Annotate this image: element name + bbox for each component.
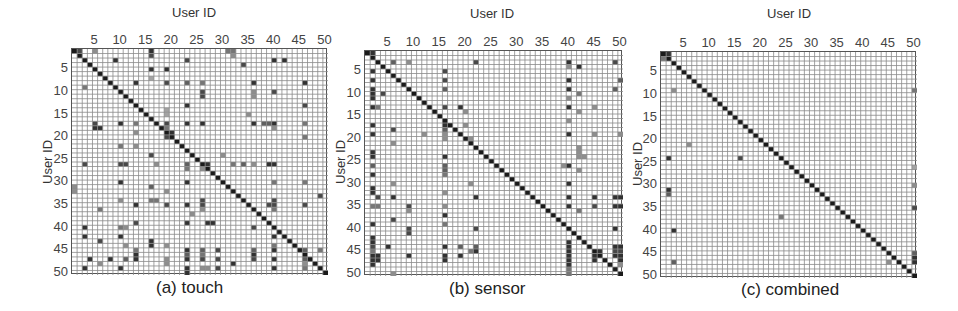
y-tick-label: 20 (347, 131, 361, 144)
heatmap-cell (365, 51, 370, 56)
heatmap-cell (566, 204, 571, 209)
caption: (c) combined (741, 280, 839, 300)
heatmap-cell (509, 177, 514, 182)
x-tick-label: 20 (457, 35, 471, 48)
heatmap-cell (530, 195, 535, 200)
heatmap-cell (850, 219, 855, 224)
y-tick-label: 45 (347, 243, 361, 256)
heatmap-cell (77, 49, 82, 54)
heatmap-cell (272, 198, 277, 203)
heatmap-cell (661, 57, 666, 62)
heatmap-cell (566, 182, 571, 187)
heatmap-cell (566, 240, 571, 245)
heatmap-cell (468, 141, 473, 146)
heatmap-cell (671, 228, 676, 233)
heatmap-cell (108, 257, 113, 262)
heatmap-cell (468, 182, 473, 187)
y-tick-label: 20 (54, 129, 68, 142)
y-tick-label: 10 (54, 84, 68, 97)
heatmap-cell (241, 162, 246, 167)
heatmap-cell (82, 266, 87, 271)
heatmap-cell (535, 200, 540, 205)
heatmap-cell (302, 203, 307, 208)
heatmap-cell (164, 261, 169, 266)
y-tick-label: 10 (643, 87, 657, 100)
heatmap-cell (692, 79, 697, 84)
heatmap-cell (566, 245, 571, 250)
heatmap-cell (661, 52, 666, 57)
heatmap-cell (613, 227, 618, 232)
heatmap-cell (473, 195, 478, 200)
heatmap-cell (401, 83, 406, 88)
heatmap-cell (473, 245, 478, 250)
heatmap-cell (205, 162, 210, 167)
heatmap-cell (195, 157, 200, 162)
heatmap-cell (577, 92, 582, 97)
heatmap-cell (463, 137, 468, 142)
heatmap-cell (251, 248, 256, 253)
heatmap-cell (597, 249, 602, 254)
y-tick-label: 25 (347, 153, 361, 166)
heatmap-cell (618, 249, 623, 254)
heatmap-cell (748, 129, 753, 134)
heatmap-cell (370, 132, 375, 137)
heatmap-cell (608, 263, 613, 268)
heatmap-cell (256, 212, 261, 217)
heatmap-cell (149, 185, 154, 190)
heatmap-cell (370, 263, 375, 268)
heatmap-cell (722, 106, 727, 111)
heatmap-cell (267, 203, 272, 208)
heatmap-cell (396, 78, 401, 83)
heatmap-cell (566, 119, 571, 124)
heatmap-cell (753, 133, 758, 138)
heatmap-cell (370, 173, 375, 178)
heatmap-cell (566, 195, 571, 200)
heatmap-cell (473, 146, 478, 151)
heatmap-cell (912, 165, 917, 170)
heatmap-cell (458, 105, 463, 110)
heatmap-cell (185, 58, 190, 63)
heatmap-cell (149, 239, 154, 244)
heatmap-cell (370, 87, 375, 92)
x-tick-label: 45 (881, 36, 895, 49)
heatmap-cell (525, 191, 530, 196)
heatmap-cell (907, 269, 912, 274)
heatmap-cell (154, 198, 159, 203)
heatmap-cell (149, 67, 154, 72)
heatmap-cell (566, 60, 571, 65)
heatmap-cell (566, 249, 571, 254)
heatmap-cell (185, 270, 190, 275)
heatmap-cell (556, 218, 561, 223)
x-tick-label: 5 (384, 35, 391, 48)
heatmap-cell (370, 258, 375, 263)
heatmap-cell (738, 120, 743, 125)
heatmap-cell (687, 142, 692, 147)
y-tick-label: 40 (347, 221, 361, 234)
heatmap-cell (287, 239, 292, 244)
heatmap-cell (577, 65, 582, 70)
heatmap-cell (618, 258, 623, 263)
heatmap-cell (149, 49, 154, 54)
heatmap-cell (561, 164, 566, 169)
heatmap-cell (200, 207, 205, 212)
heatmap-cell (318, 266, 323, 271)
heatmap-cell (499, 168, 504, 173)
heatmap-cell (200, 94, 205, 99)
heatmap-cell (200, 248, 205, 253)
heatmap-cell (618, 78, 623, 83)
x-tick-label: 10 (406, 35, 420, 48)
caption: (b) sensor (449, 279, 526, 299)
heatmap-cell (318, 248, 323, 253)
heatmap-cell (251, 162, 256, 167)
heatmap-cell (406, 231, 411, 236)
y-tick-label: 5 (354, 63, 361, 76)
heatmap-cell (442, 164, 447, 169)
heatmap-cell (246, 112, 251, 117)
heatmap-cell (180, 144, 185, 149)
heatmap-cell (375, 258, 380, 263)
heatmap-cell (442, 213, 447, 218)
heatmap-cell (231, 189, 236, 194)
heatmap-cell (551, 213, 556, 218)
heatmap-cell (370, 191, 375, 196)
heatmap-cell (370, 249, 375, 254)
